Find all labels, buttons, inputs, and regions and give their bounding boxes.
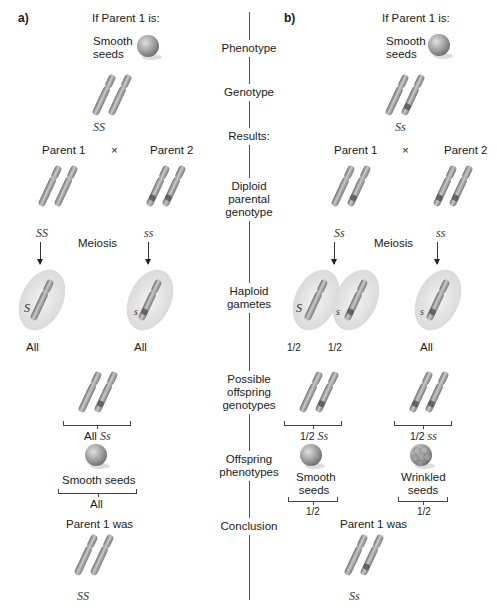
offspring-chromosome-pair-icon (429, 392, 430, 393)
chromosome-pair-icon (112, 95, 113, 96)
panel-a-offspring-phenotype: Smooth seeds (62, 474, 136, 487)
panel-a-genotype: SS (93, 121, 105, 134)
panel-b-gamete2-fraction: 1/2 (328, 341, 342, 354)
smooth-seed-icon (311, 455, 312, 456)
wrinkled-seed-icon (421, 455, 422, 456)
panel-b-offspring1-fraction: 1/2 (306, 505, 320, 518)
panel-b-phenotype-label: Smoothseeds (386, 35, 426, 61)
panel-a-parent2: Parent 2 (150, 144, 193, 157)
panel-b-if-parent: If Parent 1 is: (382, 12, 450, 25)
bracket (284, 421, 342, 426)
panel-b-cross: × (402, 144, 409, 157)
gamete-icon (356, 300, 357, 301)
arrow-down-icon (334, 242, 335, 264)
gamete-icon (438, 300, 439, 301)
parent1-chromosome-pair-icon (58, 186, 59, 187)
panel-b-offspring2-fraction: 1/2 (417, 505, 431, 518)
panel-b-meiosis: Meiosis (374, 237, 413, 250)
panel-b-offspring2-genotype: 1/2 ss (410, 430, 437, 443)
panel-b-offspring2-phenotype: Wrinkledseeds (401, 471, 445, 497)
smooth-seed-icon (439, 45, 440, 46)
panel-b-gamete1-fraction: 1/2 (287, 341, 301, 354)
gamete-icon (150, 300, 151, 301)
panel-a-gamete1-allele: S (24, 302, 30, 315)
row-label-results: Results: (228, 128, 270, 145)
panel-b-genotype: Ss (395, 121, 406, 134)
panel-b-offspring1-phenotype: Smoothseeds (296, 471, 332, 497)
conclusion-chromosome-pair-icon (94, 555, 95, 556)
panel-b-parent1: Parent 1 (334, 144, 377, 157)
row-label-genotype: Genotype (224, 84, 274, 101)
panel-a-cross: × (111, 144, 118, 157)
panel-a-phenotype-label: Smoothseeds (93, 35, 133, 61)
panel-a-offspring-fraction: All (90, 498, 103, 511)
panel-b-conclusion-label: Parent 1 was (340, 518, 407, 531)
bracket (398, 497, 448, 502)
row-label-offspring-phenotypes: Offspringphenotypes (219, 451, 278, 481)
panel-a-parent1: Parent 1 (42, 144, 85, 157)
panel-b-gamete2-allele: s (336, 305, 340, 318)
row-label-conclusion: Conclusion (221, 518, 278, 535)
panel-a-label: a) (18, 12, 29, 25)
bracket (58, 489, 137, 494)
panel-a-conclusion-label: Parent 1 was (66, 518, 133, 531)
arrow-down-icon (437, 242, 438, 264)
panel-a-parent1-genotype: SS (36, 227, 48, 240)
row-label-diploid: Diploidparentalgenotype (225, 178, 272, 221)
panel-a-gamete2-fraction: All (134, 341, 147, 354)
bracket (288, 497, 338, 502)
row-label-phenotype: Phenotype (222, 40, 277, 57)
panel-b-parent2-genotype: ss (436, 227, 445, 240)
panel-a-offspring-genotype: All Ss (84, 430, 111, 443)
gamete-icon (42, 300, 43, 301)
bracket (394, 421, 452, 426)
smooth-seed-icon (96, 455, 97, 456)
panel-a-if-parent: If Parent 1 is: (92, 12, 160, 25)
arrow-down-icon (40, 242, 41, 264)
panel-a-conclusion-genotype: SS (77, 590, 89, 603)
parent2-chromosome-pair-icon (166, 186, 167, 187)
panel-a-gamete1-fraction: All (26, 341, 39, 354)
row-label-possible-genotypes: Possibleoffspringgenotypes (222, 371, 275, 414)
panel-a-gamete2-allele: s (134, 305, 138, 318)
arrow-down-icon (148, 242, 149, 264)
parent2-chromosome-pair-icon (453, 186, 454, 187)
offspring-chromosome-pair-icon (319, 392, 320, 393)
panel-b-conclusion-genotype: Ss (349, 590, 360, 603)
parent1-chromosome-pair-icon (351, 186, 352, 187)
panel-a-parent2-genotype: ss (144, 227, 153, 240)
panel-b-gamete3-fraction: All (420, 341, 433, 354)
panel-b-label: b) (284, 12, 295, 25)
smooth-seed-icon (148, 46, 149, 47)
chromosome-pair-icon (405, 95, 406, 96)
panel-a-meiosis: Meiosis (78, 237, 117, 250)
panel-b-parent2: Parent 2 (444, 144, 487, 157)
panel-b-gamete3-allele: s (420, 305, 424, 318)
gamete-icon (316, 300, 317, 301)
bracket (63, 421, 131, 426)
panel-b-gamete1-allele: S (296, 302, 302, 315)
panel-b-offspring1-genotype: 1/2 Ss (300, 430, 328, 443)
offspring-chromosome-pair-icon (98, 392, 99, 393)
row-label-haploid: Haploidgametes (227, 283, 271, 313)
conclusion-chromosome-pair-icon (364, 555, 365, 556)
panel-b-parent1-genotype: Ss (334, 227, 345, 240)
